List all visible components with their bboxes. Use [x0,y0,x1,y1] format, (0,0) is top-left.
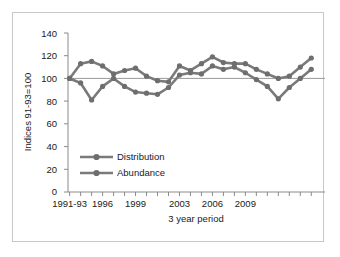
data-point-marker [78,80,83,85]
data-point-marker [111,71,116,76]
y-tick-label: 140 [41,28,57,39]
data-point-marker [78,61,83,66]
data-point-marker [254,77,259,82]
data-point-marker [188,70,193,75]
legend-label: Distribution [117,151,165,162]
data-point-marker [177,72,182,77]
data-point-marker [199,71,204,76]
data-point-marker [243,70,248,75]
y-tick-label: 120 [41,50,57,61]
data-point-marker [155,92,160,97]
x-tick-label: 2003 [169,198,190,209]
legend-swatch-marker [93,170,99,176]
legend-item-abundance[interactable]: Abundance [80,167,165,178]
x-tick-label: 2009 [235,198,256,209]
data-point-marker [199,61,204,66]
series-distribution [67,54,314,84]
chart-legend: Distribution Abundance [80,151,165,178]
data-point-marker [221,60,226,65]
data-point-marker [133,89,138,94]
data-point-marker [100,84,105,89]
data-point-marker [276,96,281,101]
data-point-marker [276,76,281,81]
legend-label: Abundance [117,167,165,178]
data-point-marker [166,85,171,90]
y-tick-label: 80 [46,96,57,107]
y-tick-label: 60 [46,118,57,129]
data-point-marker [309,67,314,72]
data-point-marker [298,64,303,69]
x-tick-label: 1991-93 [52,198,87,209]
data-point-marker [100,63,105,68]
x-axis-ticks [70,192,312,196]
y-tick-label: 100 [41,73,57,84]
data-point-marker [210,54,215,59]
data-point-marker [287,85,292,90]
legend-swatch-marker [93,154,99,160]
chart-svg: Indices 91-93=100 140 120 100 80 60 40 2… [0,0,340,257]
data-point-marker [210,63,215,68]
x-tick-label: 1999 [125,198,146,209]
data-point-marker [122,68,127,73]
data-point-marker [155,78,160,83]
y-tick-label: 0 [52,186,57,197]
x-tick-label: 2006 [202,198,223,209]
data-point-marker [67,76,72,81]
data-point-marker [265,84,270,89]
data-point-marker [243,61,248,66]
data-point-marker [177,63,182,68]
data-point-marker [89,97,94,102]
data-point-marker [89,59,94,64]
x-tick-labels: 1991-9319961999200320062009 [52,198,256,209]
chart-figure: Indices 91-93=100 140 120 100 80 60 40 2… [0,0,340,257]
data-point-marker [287,74,292,79]
data-point-marker [232,64,237,69]
data-point-marker [144,91,149,96]
data-point-marker [309,55,314,60]
x-tick-label: 1996 [92,198,113,209]
data-point-marker [221,67,226,72]
data-point-marker [122,84,127,89]
y-tick-label: 40 [46,141,57,152]
x-axis-title: 3 year period [168,213,223,224]
y-tick-label: 20 [46,164,57,175]
y-axis-ticks [64,33,68,192]
data-point-marker [133,66,138,71]
data-point-marker [144,74,149,79]
data-point-marker [265,71,270,76]
y-axis-title: Indices 91-93=100 [22,73,33,151]
legend-item-distribution[interactable]: Distribution [80,151,165,162]
data-point-marker [111,76,116,81]
data-point-marker [254,67,259,72]
data-point-marker [298,76,303,81]
y-tick-labels: 140 120 100 80 60 40 20 0 [41,28,57,198]
